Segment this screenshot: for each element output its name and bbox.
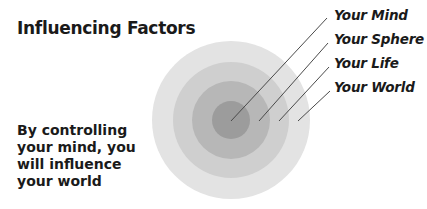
label-your-world: Your World (334, 79, 415, 95)
label-your-life: Your Life (334, 55, 399, 71)
label-your-mind: Your Mind (334, 7, 408, 23)
label-your-sphere: Your Sphere (334, 31, 424, 47)
